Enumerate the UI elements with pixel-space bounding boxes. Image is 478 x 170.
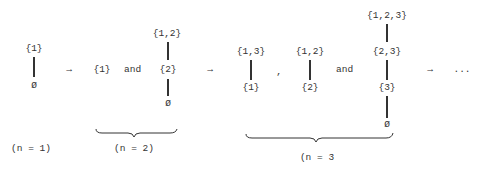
underbraces [0,0,478,170]
underbrace-n2 [96,129,177,137]
underbrace-n3 [246,133,393,142]
